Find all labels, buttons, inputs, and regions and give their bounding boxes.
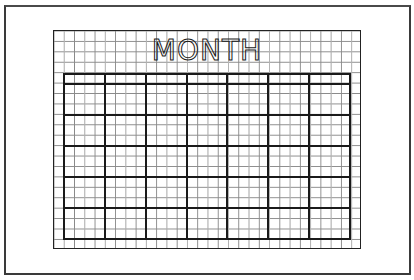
calendar-day-cell [310, 147, 349, 176]
weekday-header-cell [310, 75, 349, 83]
weekday-header-cell [269, 75, 310, 83]
calendar-day-cell [188, 147, 229, 176]
calendar-week-row [65, 209, 349, 238]
calendar-week-row [65, 85, 349, 116]
calendar-day-cell [147, 209, 188, 238]
calendar-header-row [65, 75, 349, 85]
calendar-day-cell [228, 85, 269, 114]
weekday-header-cell [147, 75, 188, 83]
calendar-day-cell [228, 116, 269, 145]
calendar-day-cell [65, 147, 106, 176]
calendar-day-cell [147, 116, 188, 145]
calendar-day-cell [147, 178, 188, 207]
calendar-day-cell [106, 178, 147, 207]
calendar-body [65, 85, 349, 238]
calendar-day-cell [269, 85, 310, 114]
calendar-day-cell [106, 209, 147, 238]
month-title-text: MONTH [152, 34, 262, 67]
calendar-day-cell [106, 85, 147, 114]
calendar-day-cell [269, 116, 310, 145]
weekday-header-cell [65, 75, 106, 83]
calendar-day-cell [228, 209, 269, 238]
calendar-day-cell [310, 116, 349, 145]
calendar-day-cell [310, 85, 349, 114]
calendar-day-cell [147, 85, 188, 114]
calendar-day-cell [65, 209, 106, 238]
calendar-day-cell [228, 178, 269, 207]
calendar-day-cell [106, 147, 147, 176]
calendar-day-cell [147, 147, 188, 176]
calendar-table [63, 73, 351, 240]
calendar-day-cell [269, 178, 310, 207]
calendar-day-cell [310, 209, 349, 238]
calendar-day-cell [106, 116, 147, 145]
calendar-day-cell [188, 178, 229, 207]
calendar-day-cell [65, 178, 106, 207]
calendar-day-cell [269, 209, 310, 238]
calendar-day-cell [269, 147, 310, 176]
weekday-header-cell [188, 75, 229, 83]
calendar-day-cell [188, 116, 229, 145]
calendar-day-cell [65, 116, 106, 145]
calendar-day-cell [188, 209, 229, 238]
weekday-header-cell [106, 75, 147, 83]
calendar-day-cell [188, 85, 229, 114]
weekday-header-cell [228, 75, 269, 83]
month-title: MONTH [53, 36, 361, 66]
calendar-week-row [65, 147, 349, 178]
calendar-week-row [65, 178, 349, 209]
calendar-day-cell [65, 85, 106, 114]
calendar-day-cell [310, 178, 349, 207]
calendar-day-cell [228, 147, 269, 176]
calendar-week-row [65, 116, 349, 147]
